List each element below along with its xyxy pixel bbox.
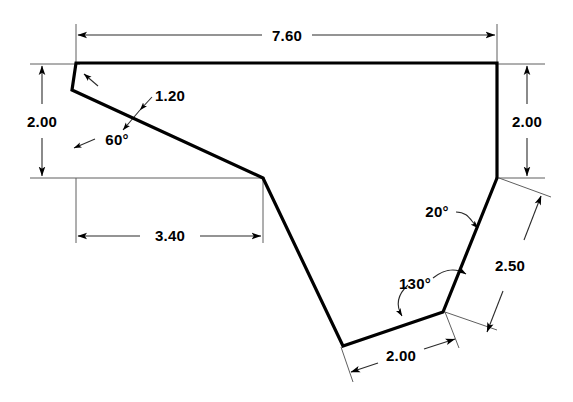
- dim-label-right-height: 2.00: [512, 113, 542, 130]
- dim-label-bottom-segment: 2.00: [386, 347, 416, 364]
- technical-drawing-canvas: 7.60 2.00 2.00 1.20 60° 3.40 2.00 2.50 2…: [0, 0, 573, 402]
- ext-line-bottom-right: [445, 312, 459, 348]
- dimension-labels: 7.60 2.00 2.00 1.20 60° 3.40 2.00 2.50 2…: [27, 27, 542, 364]
- leader-short-segment-lower-a: [140, 97, 152, 110]
- dim-label-lower-run: 3.40: [155, 227, 185, 244]
- dim-label-right-angle: 20°: [425, 203, 448, 220]
- ext-line-slant-top: [499, 178, 551, 197]
- profile-drawing-svg: 7.60 2.00 2.00 1.20 60° 3.40 2.00 2.50 2…: [0, 0, 573, 402]
- dim-label-overall-width: 7.60: [272, 27, 302, 44]
- dim-label-short-segment: 1.20: [155, 87, 185, 104]
- dim-label-right-slant: 2.50: [495, 257, 525, 274]
- ext-line-bottom-left: [341, 347, 353, 382]
- dim-label-left-height: 2.00: [27, 113, 57, 130]
- leader-short-segment-upper: [84, 74, 98, 86]
- dim-line-slant-bottom: [487, 291, 503, 332]
- dim-line-slant-top: [524, 196, 541, 240]
- leader-right-angle: [456, 212, 478, 228]
- extension-lines: [30, 24, 551, 382]
- dim-label-bottom-angle: 130°: [399, 275, 431, 292]
- dim-line-bottom-right: [424, 339, 455, 349]
- dim-label-left-angle: 60°: [105, 131, 128, 148]
- leader-left-angle: [74, 139, 95, 148]
- dim-line-bottom-left: [351, 363, 378, 372]
- dimension-lines: [42, 35, 541, 372]
